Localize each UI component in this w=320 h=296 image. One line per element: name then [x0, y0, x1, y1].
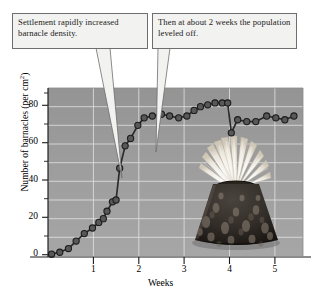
y-axis-title-close: )	[19, 73, 30, 76]
x-axis-title: Weeks	[148, 277, 173, 288]
y-tick-label-20: 20	[16, 211, 38, 221]
callout-right-pointer	[156, 48, 170, 152]
x-tick-label-4: 4	[222, 264, 238, 274]
callout-left-pointer	[96, 48, 122, 178]
callout-leveled-off-note: Then at about 2 weeks the population lev…	[152, 13, 297, 49]
y-tick-label-0: 0	[16, 248, 38, 258]
y-axis-title-exponent: 2	[18, 76, 25, 79]
y-axis-title: Number of barnacles (per cm2)	[18, 52, 30, 212]
x-tick-label-3: 3	[176, 264, 192, 274]
x-tick-label-1: 1	[85, 264, 101, 274]
barnacle-density-figure: Settlement rapidly increased barnacle de…	[0, 0, 320, 296]
callout-settlement-note: Settlement rapidly increased barnacle de…	[12, 13, 148, 49]
x-tick-label-5: 5	[267, 264, 283, 274]
y-axis-title-main: Number of barnacles (per cm	[19, 79, 30, 191]
x-tick-label-2: 2	[131, 264, 147, 274]
